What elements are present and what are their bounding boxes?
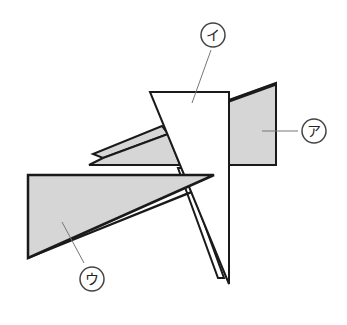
label-u-text: ウ <box>85 271 99 287</box>
label-a: ア <box>302 119 326 143</box>
diagram-canvas: イ ア ウ <box>0 0 347 325</box>
label-u: ウ <box>80 267 104 291</box>
label-a-text: ア <box>307 123 321 139</box>
shape-u-triangle <box>28 175 214 258</box>
label-i: イ <box>201 23 225 47</box>
shape-a-trapezoid <box>229 83 276 165</box>
label-i-text: イ <box>206 27 220 43</box>
